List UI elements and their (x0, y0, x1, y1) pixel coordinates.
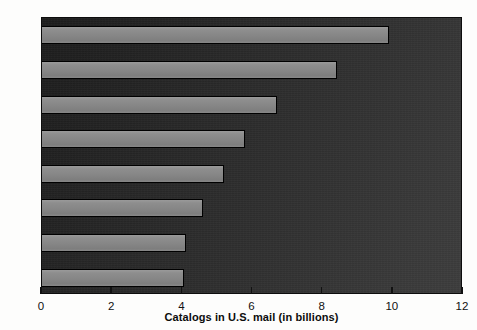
x-tick-mark-10 (391, 287, 393, 294)
bar-rect-1985 (41, 26, 389, 44)
bar-rect-1979 (41, 234, 186, 252)
x-tick-mark-6 (251, 287, 253, 294)
bar-1978 (42, 269, 461, 287)
x-tick-mark-8 (321, 287, 323, 294)
x-axis: 024681012 (41, 294, 462, 300)
bar-rect-1984 (41, 61, 337, 79)
bar-1985 (42, 26, 461, 44)
x-axis-title: Catalogs in U.S. mail (in billions) (41, 311, 462, 323)
bar-rect-1982 (41, 130, 245, 148)
bar-1984 (42, 61, 461, 79)
bar-rect-1980 (41, 199, 203, 217)
x-tick-mark-12 (461, 287, 463, 294)
bar-rect-1983 (41, 96, 277, 114)
x-tick-mark-0 (40, 287, 42, 294)
plot-area (41, 17, 462, 294)
x-tick-mark-2 (110, 287, 112, 294)
bar-1982 (42, 130, 461, 148)
bar-rect-1981 (41, 165, 224, 183)
bar-1979 (42, 234, 461, 252)
x-tick-mark-4 (181, 287, 183, 294)
bar-chart: 19851984198319821981198019791978 0246810… (0, 0, 477, 330)
bar-1981 (42, 165, 461, 183)
bar-1980 (42, 199, 461, 217)
bar-1983 (42, 96, 461, 114)
bar-rect-1978 (41, 269, 184, 287)
